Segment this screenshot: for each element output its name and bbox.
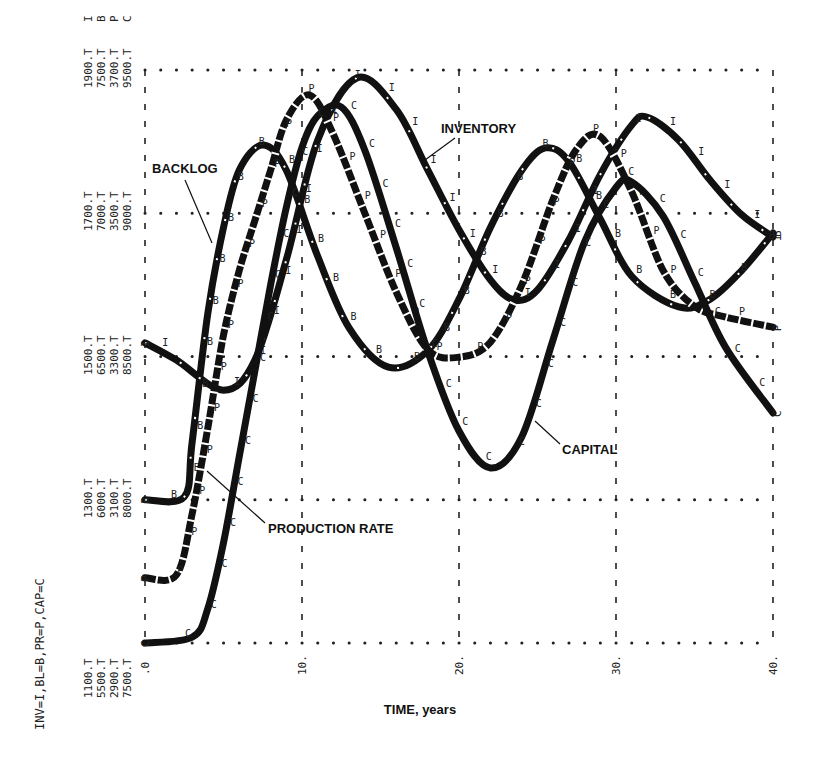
series-marker: B bbox=[213, 295, 219, 306]
series-marker: C bbox=[245, 435, 251, 446]
series-marker: C bbox=[267, 311, 273, 322]
series-start-label: P bbox=[139, 575, 152, 582]
series-marker: P bbox=[333, 112, 339, 123]
series-marker: P bbox=[221, 361, 227, 372]
series-marker: P bbox=[207, 444, 213, 455]
series-marker: P bbox=[365, 190, 371, 201]
series-marker: I bbox=[450, 192, 456, 203]
series-production-rate: PPPPPPPPPPPPPPPPPPPPPPPPPPPPPPPPPPP bbox=[139, 83, 784, 582]
series-marker: C bbox=[230, 517, 236, 528]
series-marker: C bbox=[221, 558, 227, 569]
series-marker: C bbox=[419, 298, 425, 309]
x-tick-label: 10. bbox=[296, 655, 309, 675]
series-marker: C bbox=[585, 237, 591, 248]
series-marker: I bbox=[316, 143, 322, 154]
series-marker: I bbox=[234, 376, 240, 387]
series-marker: P bbox=[350, 151, 356, 162]
series-marker: P bbox=[177, 565, 183, 576]
series-marker: C bbox=[185, 628, 191, 639]
series-marker: P bbox=[274, 158, 280, 169]
series-marker: B bbox=[414, 351, 420, 362]
series-marker: I bbox=[525, 287, 531, 298]
series-marker: P bbox=[228, 319, 234, 330]
series-marker: C bbox=[275, 269, 281, 280]
series-start-label: C bbox=[139, 640, 152, 647]
production-rate-annotation: PRODUCTION RATE bbox=[268, 521, 394, 536]
series-marker: B bbox=[376, 344, 382, 355]
series-marker: P bbox=[525, 275, 531, 286]
series-marker: B bbox=[464, 285, 470, 296]
series-marker: P bbox=[191, 526, 197, 537]
series-curves: IIIIIIIIIIIIIIIIIIIIIIIIIIIIIBBBBBBBBBBB… bbox=[139, 69, 784, 647]
series-marker: B bbox=[576, 153, 582, 164]
series-marker: B bbox=[636, 264, 642, 275]
series-marker: B bbox=[351, 311, 357, 322]
inventory-annotation: INVENTORY bbox=[441, 121, 516, 136]
series-marker: B bbox=[238, 171, 244, 182]
series-marker: C bbox=[283, 228, 289, 239]
series-marker: I bbox=[285, 265, 291, 276]
series-marker: C bbox=[560, 317, 566, 328]
series-backlog: BBBBBBBBBBBBBBBBBBBBBBBBBBBBBBBBB bbox=[139, 136, 784, 504]
x-tick-label: .0 bbox=[139, 662, 152, 675]
y-tick-label-stack: 1300.T 6000.T 3100.T 8000.T bbox=[82, 478, 134, 518]
series-marker: I bbox=[670, 116, 676, 127]
series-marker: B bbox=[259, 136, 265, 147]
series-marker: B bbox=[444, 322, 450, 333]
series-end-label: P bbox=[771, 324, 784, 331]
series-marker: I bbox=[635, 113, 641, 124]
series-marker: C bbox=[486, 451, 492, 462]
series-marker: C bbox=[260, 352, 266, 363]
series-key: I B P C bbox=[82, 15, 134, 22]
series-marker: C bbox=[395, 218, 401, 229]
y-tick-label-stack: 1500.T 6500.T 3300.T 8500.T bbox=[82, 335, 134, 375]
series-marker: I bbox=[554, 259, 560, 270]
series-marker: P bbox=[238, 278, 244, 289]
series-marker: B bbox=[171, 489, 177, 500]
series-marker: P bbox=[286, 118, 292, 129]
series-marker: I bbox=[296, 224, 302, 235]
series-marker: C bbox=[603, 199, 609, 210]
backlog-annotation: BACKLOG bbox=[152, 161, 218, 176]
series-marker: P bbox=[249, 238, 255, 249]
series-marker: P bbox=[214, 402, 220, 413]
series-marker: P bbox=[593, 123, 599, 134]
capital-annotation: CAPITAL bbox=[562, 442, 617, 457]
series-marker: I bbox=[724, 179, 730, 190]
series-marker: P bbox=[654, 225, 660, 236]
series-marker: B bbox=[304, 194, 310, 205]
series-marker: C bbox=[318, 107, 324, 118]
series-marker: C bbox=[462, 416, 468, 427]
series-start-label: B bbox=[139, 497, 152, 504]
series-marker: P bbox=[671, 264, 677, 275]
series-marker: C bbox=[432, 338, 438, 349]
series-marker: C bbox=[292, 187, 298, 198]
series-marker: C bbox=[237, 476, 243, 487]
series-marker: C bbox=[351, 100, 357, 111]
series-marker: I bbox=[389, 82, 395, 93]
series-marker: B bbox=[741, 262, 747, 273]
series-marker: B bbox=[517, 171, 523, 182]
series-marker: C bbox=[698, 267, 704, 278]
series-marker: C bbox=[759, 377, 765, 388]
series-marker: B bbox=[543, 138, 549, 149]
series-end-label: B bbox=[771, 230, 784, 237]
series-marker: C bbox=[302, 146, 308, 157]
series-marker: I bbox=[575, 223, 581, 234]
series-start-label: I bbox=[139, 340, 152, 347]
series-marker: B bbox=[228, 212, 234, 223]
series-marker: C bbox=[519, 436, 525, 447]
series-marker: B bbox=[480, 246, 486, 257]
x-axis-title: TIME, years bbox=[384, 702, 456, 717]
series-marker: B bbox=[333, 272, 339, 283]
series-marker: P bbox=[621, 148, 627, 159]
series-marker: I bbox=[492, 264, 498, 275]
series-marker: C bbox=[715, 306, 721, 317]
series-marker: I bbox=[274, 305, 280, 316]
series-marker: B bbox=[207, 336, 213, 347]
series-marker: P bbox=[553, 196, 559, 207]
series-marker: P bbox=[199, 485, 205, 496]
series-marker: I bbox=[470, 228, 476, 239]
series-marker: P bbox=[380, 229, 386, 240]
series-marker: C bbox=[252, 393, 258, 404]
